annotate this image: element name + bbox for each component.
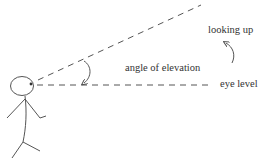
looking-up-arrow [226, 43, 234, 63]
figure-right-leg [23, 142, 40, 151]
stick-figure [7, 77, 46, 159]
figure-left-leg [12, 142, 23, 158]
angle-arc-arrow [84, 61, 90, 83]
angle-of-elevation-label: angle of elevation [125, 63, 200, 74]
figure-left-arm [7, 99, 25, 118]
looking-up-label: looking up [208, 25, 253, 36]
eye-level-label: eye level [220, 79, 258, 90]
figure-right-arm [25, 99, 46, 118]
figure-eye [30, 83, 33, 86]
figure-head [11, 77, 34, 96]
figure-body [23, 96, 26, 142]
